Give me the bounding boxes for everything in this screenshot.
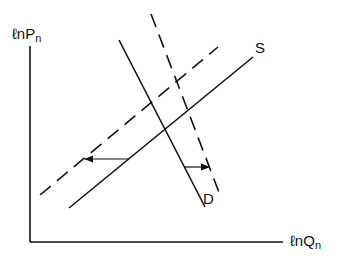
- x-axis-label-prefix: ℓn: [290, 232, 303, 249]
- y-axis-label-prefix: ℓn: [12, 25, 25, 42]
- diagram-canvas: [0, 0, 340, 266]
- y-axis-label: ℓnPn: [12, 26, 41, 44]
- y-axis-label-sub: n: [35, 32, 41, 44]
- supply-curve: [69, 57, 253, 208]
- supply-label: S: [255, 40, 265, 55]
- y-axis-label-main: P: [25, 25, 35, 42]
- x-axis-label-main: Q: [303, 232, 315, 249]
- x-axis-label-sub: n: [315, 239, 321, 251]
- x-axis-label: ℓnQn: [290, 233, 321, 251]
- demand-label: D: [203, 191, 214, 206]
- supply-demand-diagram: ℓnPn ℓnQn S D: [0, 0, 340, 266]
